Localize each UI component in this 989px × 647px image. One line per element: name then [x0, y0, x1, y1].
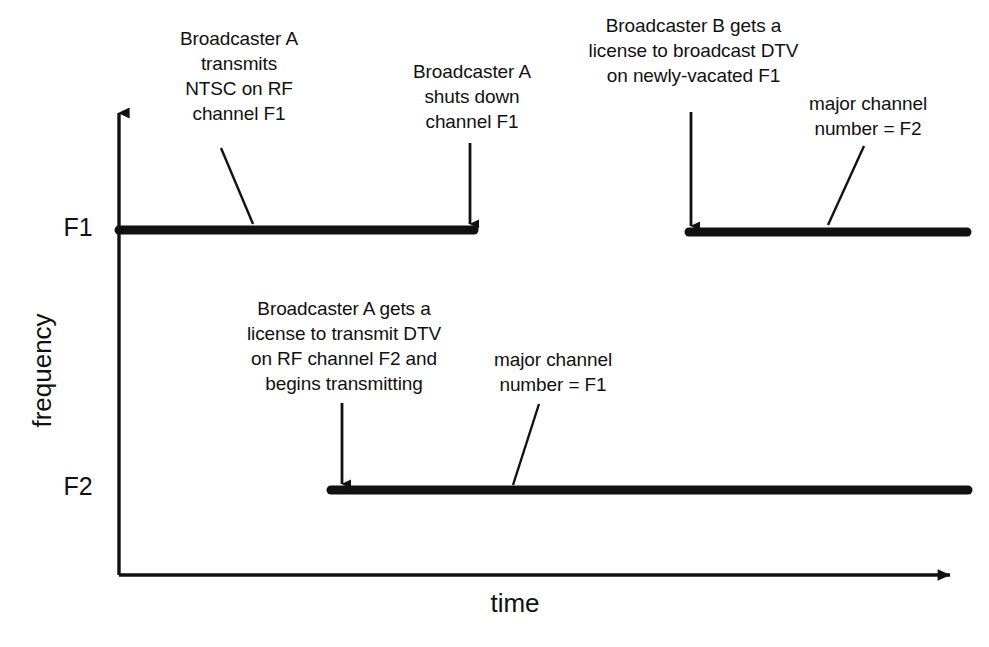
leader-line-broadcaster-a-transmits-ntsc	[221, 148, 253, 224]
y-tick-label-f1: F1	[50, 213, 106, 242]
annotation-broadcaster-a-shuts-down: Broadcaster A shuts down channel F1	[378, 59, 566, 134]
leader-line-major-channel-number-f2	[828, 146, 864, 225]
annotation-major-channel-number-f1: major channel number = F1	[458, 347, 648, 397]
diagram-canvas: F1 F2 frequency time Broadcaster A trans…	[0, 0, 989, 647]
x-axis-title: time	[455, 588, 575, 619]
leader-line-major-channel-number-f1	[513, 404, 539, 485]
annotation-broadcaster-b-license: Broadcaster B gets a license to broadcas…	[556, 13, 831, 88]
annotation-broadcaster-a-license: Broadcaster A gets a license to transmit…	[228, 296, 460, 396]
annotation-broadcaster-a-transmits-ntsc: Broadcaster A transmits NTSC on RF chann…	[145, 26, 333, 126]
y-tick-label-f2: F2	[50, 472, 106, 501]
annotation-major-channel-number-f2: major channel number = F2	[773, 91, 963, 141]
y-axis-title: frequency	[27, 281, 58, 461]
